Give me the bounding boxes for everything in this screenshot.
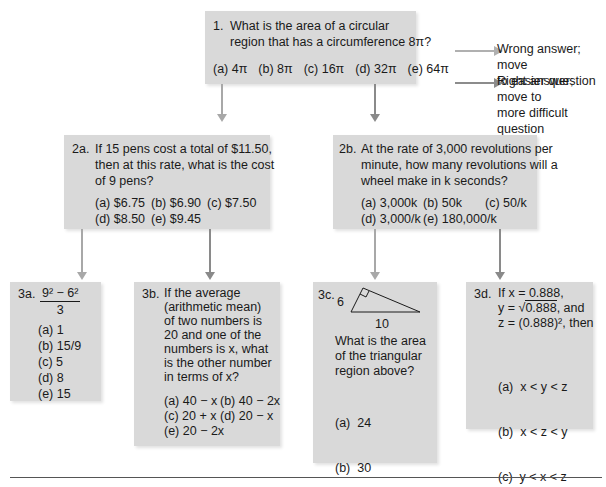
answer-option: (d) 20 − x: [220, 409, 273, 424]
question-2b-box: 2b. At the rate of 3,000 revolutions per…: [333, 135, 537, 229]
question-3b-box: 3b. If the average (arithmetic mean) of …: [134, 282, 280, 446]
question-text: of two numbers is: [164, 314, 272, 328]
question-text: If x = 0.888,: [498, 286, 594, 301]
answer-option: (a) 3,000k: [361, 195, 423, 211]
right-arrow-icon: [374, 84, 376, 116]
question-text: At the rate of 3,000 revolutions per: [361, 141, 558, 157]
answer-option: (d) $8.50: [95, 211, 151, 227]
answer-option: (b) x < z < y: [498, 425, 567, 440]
question-number: 3d.: [474, 286, 491, 302]
radicand: 0.888: [525, 300, 556, 315]
question-text: in terms of x?: [164, 370, 272, 384]
question-3a-box: 3a. 9² − 6² 3 (a) 1 (b) 15/9 (c) 5 (d) 8…: [10, 282, 101, 401]
right-arrow-icon: [499, 229, 501, 274]
answer-option: (b) 8π: [258, 61, 292, 77]
question-text: What is the area of a circular: [230, 18, 431, 34]
wrong-arrow-icon: [81, 229, 83, 274]
right-answer-arrow-icon: [455, 82, 495, 84]
legend-wrong-text: Wrong answer; move: [497, 41, 606, 73]
answer-option: (c) 5: [38, 354, 81, 370]
question-number: 1.: [213, 18, 223, 34]
answer-option: (b) 50k: [423, 195, 485, 211]
legend-right-text: more difficult question: [497, 105, 606, 137]
question-text: y = √0.888, and: [498, 301, 594, 316]
question-3d-box: 3d. If x = 0.888, y = √0.888, and z = (0…: [466, 282, 593, 429]
answer-option: (c) $7.50: [207, 195, 256, 211]
answer-option: (b) 30: [335, 461, 371, 476]
wrong-answer-arrow-icon: [455, 50, 495, 52]
question-text: of the triangular: [335, 349, 426, 364]
answer-option: (d) 3,000/k: [361, 211, 423, 227]
wrong-arrow-icon: [221, 84, 223, 116]
question-text: If the average: [164, 286, 272, 300]
text-fragment: , and: [557, 301, 585, 315]
question-number: 3a.: [18, 286, 35, 302]
triangle-base-label: 10: [375, 316, 389, 332]
question-number: 2a.: [72, 141, 89, 157]
answer-option: (b) $6.90: [151, 195, 207, 211]
answer-option: (d) 32π: [355, 61, 396, 77]
legend-right-text: Right answer; move to: [497, 73, 606, 105]
question-text: then at this rate, what is the cost: [95, 157, 274, 173]
text-fragment: y =: [498, 301, 519, 315]
question-text: region above?: [335, 364, 426, 379]
question-text: 20 and one of the: [164, 328, 272, 342]
question-1-box: 1. What is the area of a circular region…: [205, 11, 416, 84]
numerator: 9² − 6²: [40, 285, 80, 302]
question-text: of 9 pens?: [95, 173, 274, 189]
answer-option: (e) 20 − 2x: [164, 424, 224, 439]
answer-option: (a) $6.75: [95, 195, 151, 211]
question-text: wheel make in k seconds?: [361, 173, 558, 189]
right-arrow-icon: [209, 229, 211, 274]
question-text: numbers is x, what: [164, 342, 272, 356]
question-text: What is the area: [335, 334, 426, 349]
answer-option: (a) 4π: [213, 61, 247, 77]
answer-option: (a) 1: [38, 322, 81, 338]
answer-option: (d) 8: [38, 370, 81, 386]
fraction-expression: 9² − 6² 3: [40, 285, 80, 318]
answer-option: (b) 40 − 2x: [220, 394, 280, 409]
answer-option: (b) 15/9: [38, 338, 81, 354]
wrong-arrow-icon: [374, 229, 376, 274]
legend-right: Right answer; move to more difficult que…: [497, 73, 606, 137]
question-number: 3b.: [142, 286, 159, 302]
answer-option: (e) 180,000/k: [423, 211, 497, 227]
answer-option: (e) 64π: [408, 61, 449, 77]
answer-option: (a) 40 − x: [164, 394, 220, 409]
question-text: If 15 pens cost a total of $11.50,: [95, 141, 274, 157]
horizontal-rule: [10, 477, 602, 478]
question-text: z = (0.888)², then: [498, 316, 594, 331]
question-3c-box: 3c. 6 10 What is the area of the triangu…: [313, 282, 437, 463]
answer-option: (c) 50/k: [485, 195, 527, 211]
question-text: is the other number: [164, 356, 272, 370]
question-text: region that has a circumference 8π?: [230, 34, 431, 50]
answer-option: (c) 16π: [304, 61, 345, 77]
answer-option: (c) 20 + x: [164, 409, 220, 424]
question-text: (arithmetic mean): [164, 300, 272, 314]
question-2a-box: 2a. If 15 pens cost a total of $11.50, t…: [64, 135, 270, 229]
answer-option: (a) x < y < z: [498, 380, 567, 395]
question-number: 2b.: [339, 141, 356, 157]
answer-option: (e) $9.45: [151, 211, 201, 227]
triangle-side-label: 6: [337, 294, 344, 310]
question-text: minute, how many revolutions will a: [361, 157, 558, 173]
right-triangle-figure: [333, 282, 423, 318]
answer-option: (a) 24: [335, 416, 371, 431]
answer-option: (e) 15: [38, 386, 81, 402]
denominator: 3: [40, 302, 80, 318]
